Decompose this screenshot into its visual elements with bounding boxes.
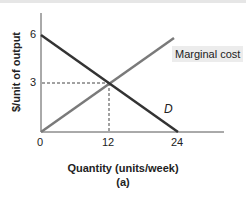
x-tick-0: 0 bbox=[37, 136, 43, 148]
x-tick-12: 12 bbox=[102, 136, 114, 148]
y-axis-label: $/unit of output bbox=[10, 22, 22, 122]
y-tick-3: 3 bbox=[30, 76, 36, 88]
y-tick-6: 6 bbox=[30, 28, 36, 40]
panel-label: (a) bbox=[0, 176, 246, 188]
x-axis-label: Quantity (units/week) bbox=[0, 162, 246, 174]
demand-label: D bbox=[164, 102, 173, 116]
x-tick-24: 24 bbox=[171, 136, 183, 148]
marginal-cost-label: Marginal cost bbox=[172, 46, 243, 62]
marginal-cost-line bbox=[41, 38, 174, 132]
